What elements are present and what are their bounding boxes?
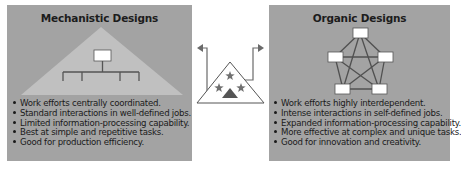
network-node-bottom-right [372,84,387,94]
left-arrow-icon [197,44,203,52]
left-arrow-line [202,48,217,97]
bullet-icon [274,130,277,133]
organic-designs-panel: Organic Designs Work efforts highly inte… [269,5,450,161]
star-icon [225,71,234,80]
bullet-icon [13,101,16,104]
bullet-icon [13,111,16,114]
star-icon [214,83,223,92]
bullet-icon [274,140,277,143]
list-item: Good for innovation and creativity. [274,138,461,148]
triangle-outline [197,62,264,103]
network-node-right [378,52,393,62]
bullet-icon [274,101,277,104]
bullet-icon [13,121,16,124]
top-node-box [94,50,111,61]
mechanistic-designs-panel: Mechanistic Designs Work efforts central… [7,5,192,161]
right-arrow-icon [258,44,264,52]
mechanistic-bullet-list: Work efforts centrally coordinated. Stan… [13,99,191,148]
organic-bullet-list: Work efforts highly interdependent. Inte… [274,99,461,148]
network-node-bottom-left [335,84,350,94]
organic-title: Organic Designs [269,12,450,24]
bullet-icon [274,121,277,124]
network-node-left [328,52,343,62]
mechanistic-title: Mechanistic Designs [7,12,192,24]
star-icons [214,71,245,92]
list-item: Good for production efficiency. [13,138,191,148]
right-arrow-line [240,48,258,80]
star-icon [236,83,245,92]
bullet-icon [13,130,16,133]
bullet-icon [13,140,16,143]
small-triangle-icon [222,88,238,98]
network-node-top [353,28,368,38]
bullet-icon [274,111,277,114]
